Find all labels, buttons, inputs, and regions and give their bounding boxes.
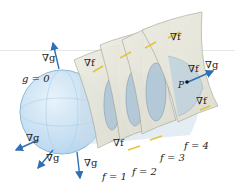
diagram-graphic [0, 0, 235, 188]
surface-f4-label: f = 4 [184, 141, 209, 151]
grad-f-label-5: ∇f [113, 138, 124, 148]
surface-f1-label: f = 1 [102, 172, 127, 182]
grad-g-label-bottom: ∇g [84, 158, 97, 168]
surface-f3-label: f = 3 [160, 153, 185, 163]
lagrange-multiplier-diagram: g = 0 ∇g ∇g ∇g ∇g ∇g ∇f ∇f ∇f ∇f ∇f P f … [0, 0, 235, 188]
point-p-label: P [178, 81, 184, 90]
sphere-label: g = 0 [22, 74, 50, 84]
grad-g-label-p: ∇g [205, 60, 218, 70]
grad-f-label-1: ∇f [84, 58, 95, 68]
grad-g-label-bottom-left: ∇g [46, 153, 59, 163]
surface-f2-label: f = 2 [132, 167, 157, 177]
point-p [185, 80, 189, 84]
grad-f-label-2: ∇f [170, 32, 181, 42]
grad-g-label-top: ∇g [42, 53, 55, 63]
grad-f-label-3: ∇f [188, 64, 199, 74]
grad-g-label-left: ∇g [26, 133, 39, 143]
grad-f-label-4: ∇f [196, 96, 207, 106]
